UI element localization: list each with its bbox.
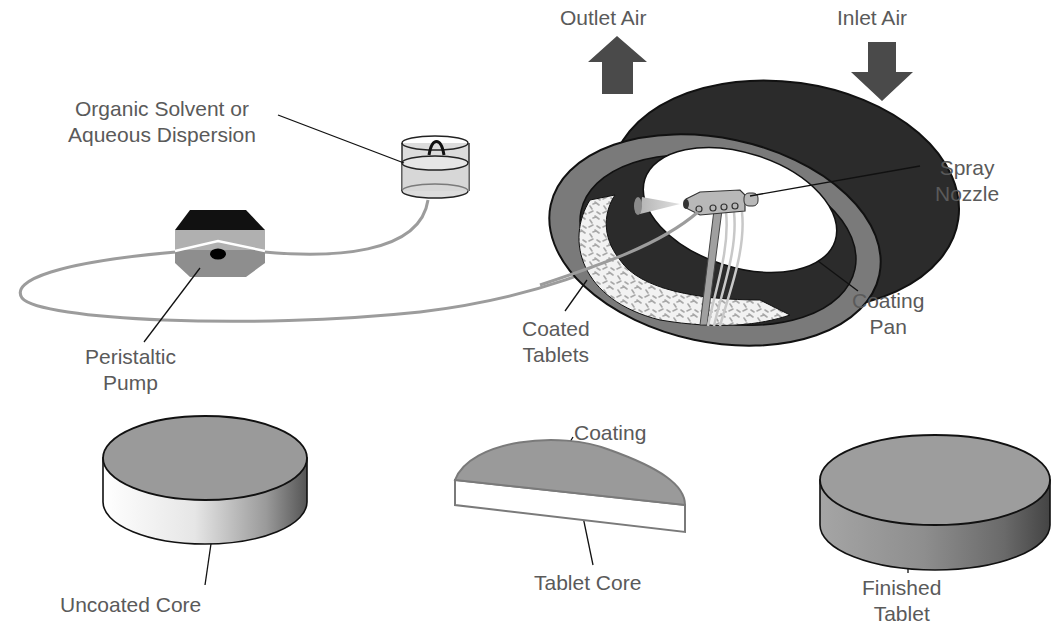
label-tablet-core: Tablet Core	[534, 570, 641, 596]
label-coating: Coating	[574, 420, 646, 446]
label-outlet-air: Outlet Air	[560, 5, 646, 31]
inlet-air-arrow-icon	[851, 42, 913, 101]
label-solvent: Organic Solvent or Aqueous Dispersion	[68, 96, 256, 148]
label-peristaltic-pump: Peristaltic Pump	[85, 344, 176, 396]
uncoated-core-tablet	[103, 416, 307, 544]
label-finished-tablet: Finished Tablet	[862, 575, 941, 627]
coated-tablet-cross-section	[455, 440, 685, 532]
finished-tablet	[820, 435, 1050, 570]
solvent-beaker	[402, 136, 469, 198]
outlet-air-arrow-icon	[588, 36, 647, 94]
label-uncoated-core: Uncoated Core	[60, 592, 201, 618]
peristaltic-pump	[175, 210, 265, 277]
label-spray-nozzle: Spray Nozzle	[935, 155, 999, 207]
label-coating-pan: Coating Pan	[852, 288, 924, 340]
label-inlet-air: Inlet Air	[837, 5, 907, 31]
label-coated-tablets: Coated Tablets	[522, 316, 590, 368]
